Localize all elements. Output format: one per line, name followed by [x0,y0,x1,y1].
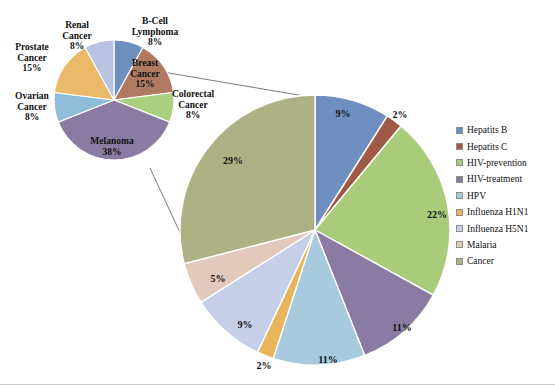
legend-item-label: Malaria [467,240,497,250]
legend-item[interactable]: Hepatits C [456,138,554,154]
legend-swatch-icon [456,209,463,216]
pct-label-hpv: 11% [315,354,341,365]
pct-label-hiv-prevention: 22% [424,209,450,220]
pct-label-influenza-h1n1: 2% [251,360,277,371]
slice-label-b-cell-lymphoma: B-Cell Lymphoma 8% [122,16,188,48]
legend-item-label: Cancer [467,256,494,266]
pct-label-malaria: 5% [205,273,231,284]
slice-label-melanoma: Melanoma 38% [82,136,142,157]
legend-item-label: HPV [467,191,486,201]
pct-label-cancer: 29% [218,155,248,166]
legend-swatch-icon [456,127,463,134]
slice-label-prostate-cancer: Prostate Cancer 15% [4,42,60,74]
legend-item-label: Hepatits C [467,142,507,152]
legend-item-label: Influenza H5N1 [467,224,528,234]
legend-item[interactable]: Influenza H1N1 [456,204,554,220]
legend-swatch-icon [456,159,463,166]
legend-swatch-icon [456,143,463,150]
legend-swatch-icon [456,241,463,248]
pct-label-influenza-h5n1: 9% [232,319,258,330]
legend-item[interactable]: HIV-prevention [456,155,554,171]
slice-label-colorectal-cancer: Colorectal Cancer 8% [162,89,224,121]
slice-label-ovarian-cancer: Ovarian Cancer 8% [4,91,60,123]
legend-swatch-icon [456,176,463,183]
pct-label-hepatitis-c: 2% [387,109,413,120]
legend-swatch-icon [456,225,463,232]
legend-item-label: Influenza H1N1 [467,207,528,217]
legend-item[interactable]: Cancer [456,253,554,269]
legend-item[interactable]: Hepatits B [456,122,554,138]
slice-label-breast-cancer: Breast Cancer 15% [119,58,171,90]
legend-swatch-icon [456,258,463,265]
legend-item[interactable]: Influenza H5N1 [456,220,554,236]
legend-item-label: HIV-prevention [467,158,527,168]
legend-swatch-icon [456,192,463,199]
legend: Hepatits BHepatits CHIV-preventionHIV-tr… [456,122,554,270]
legend-item[interactable]: Malaria [456,237,554,253]
legend-item[interactable]: HIV-treatment [456,171,554,187]
pct-label-hepatitis-b: 9% [330,108,356,119]
legend-item-label: Hepatits B [467,125,507,135]
pie-chart-figure: Renal Cancer 8% B-Cell Lymphoma 8% Prost… [0,0,555,385]
legend-item-label: HIV-treatment [467,174,522,184]
pct-label-hiv-treatment: 11% [389,322,415,333]
legend-item[interactable]: HPV [456,188,554,204]
